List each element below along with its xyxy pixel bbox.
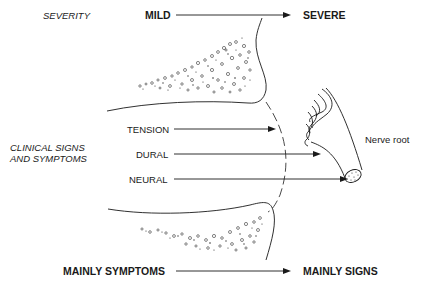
- footer-arrow: [176, 268, 291, 274]
- tension-arrow: [174, 126, 276, 132]
- nerve-root-icon: [305, 88, 363, 185]
- severity-arrow: [176, 12, 291, 18]
- dural-label: DURAL: [136, 149, 168, 160]
- severity-axis-label: SEVERITY: [43, 10, 91, 21]
- dural-sheath-outline: [266, 102, 286, 212]
- bone-texture-upper: [139, 37, 251, 93]
- upper-vertebra: [107, 18, 266, 111]
- dural-arrow: [174, 151, 321, 157]
- mainly-symptoms-label: MAINLY SYMPTOMS: [63, 265, 165, 277]
- nerve-root-label: Nerve root: [365, 134, 410, 145]
- severity-diagram: SEVERITY MILD SEVERE: [0, 0, 422, 285]
- mainly-signs-label: MAINLY SIGNS: [303, 265, 378, 277]
- neural-label: NEURAL: [129, 174, 168, 185]
- bone-texture-lower: [141, 217, 263, 251]
- lower-vertebra: [108, 203, 274, 260]
- clinical-signs-label-line2: AND SYMPTOMS: [9, 153, 88, 164]
- tension-label: TENSION: [127, 124, 169, 135]
- clinical-signs-label-line1: CLINICAL SIGNS: [10, 142, 85, 153]
- mild-label: MILD: [145, 9, 171, 21]
- neural-arrow: [174, 176, 348, 182]
- severe-label: SEVERE: [303, 9, 346, 21]
